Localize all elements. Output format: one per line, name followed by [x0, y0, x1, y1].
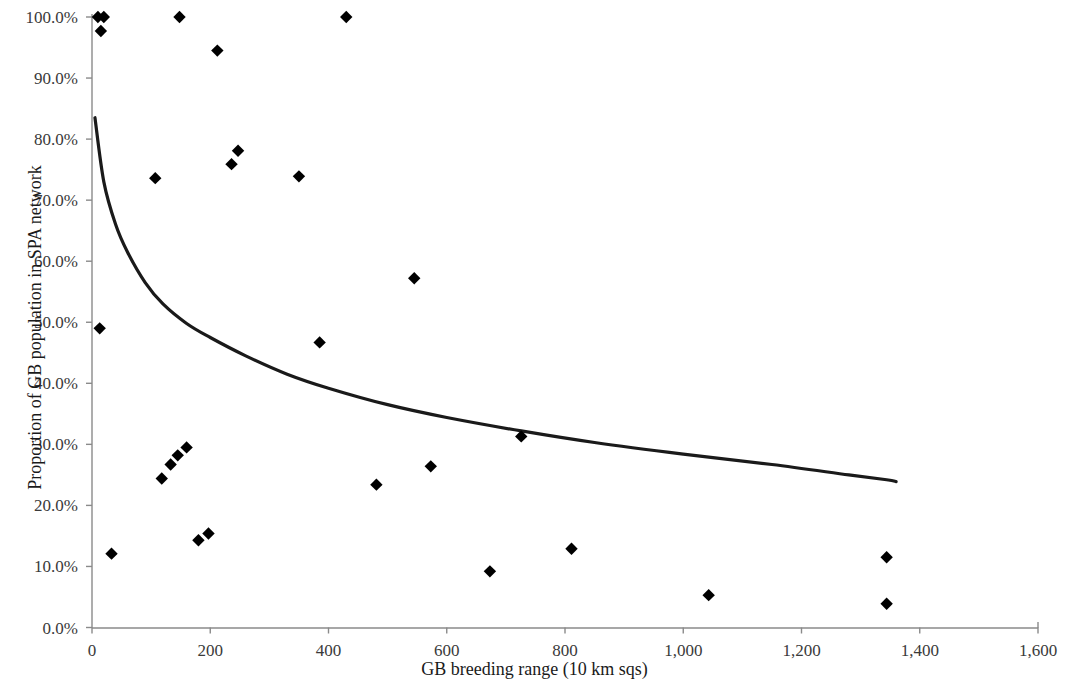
x-axis-tick-label: 1,200 [782, 642, 820, 659]
data-point-marker [156, 472, 168, 484]
data-point-marker [565, 543, 577, 555]
data-point-marker [149, 172, 161, 184]
data-point-marker [164, 458, 176, 470]
data-point-marker [232, 144, 244, 156]
y-axis-title: Proportion of GB population in SPA netwo… [25, 48, 46, 608]
y-axis-tick-label: 0.0% [0, 619, 78, 636]
data-point-marker [370, 478, 382, 490]
x-axis-tick-label: 400 [316, 642, 342, 659]
data-point-marker [173, 11, 185, 23]
x-axis-tick-label: 800 [552, 642, 578, 659]
data-point-marker [172, 449, 184, 461]
data-point-marker [340, 11, 352, 23]
axes [92, 14, 1038, 628]
trendline [95, 118, 896, 482]
data-point-marker [408, 272, 420, 284]
x-axis-tick-label: 1,600 [1019, 642, 1057, 659]
data-point-marker [225, 158, 237, 170]
y-axis-ticks [86, 17, 92, 628]
scatter-plot-canvas [0, 0, 1069, 688]
x-axis-tick-label: 200 [198, 642, 224, 659]
x-axis-tick-label: 1,400 [901, 642, 939, 659]
x-axis-tick-label: 1,000 [664, 642, 702, 659]
y-axis-tick-label: 100.0% [0, 9, 78, 26]
x-axis-tick-label: 600 [434, 642, 460, 659]
x-axis-tick-label: 0 [88, 642, 97, 659]
data-point-marker [313, 336, 325, 348]
data-point-marker [93, 322, 105, 334]
data-point-marker [192, 534, 204, 546]
data-point-marker [105, 547, 117, 559]
data-point-marker [702, 589, 714, 601]
data-point-marker [880, 597, 892, 609]
data-point-marker [880, 551, 892, 563]
data-points [92, 11, 893, 610]
chart-figure: 0.0%10.0%20.0%30.0%40.0%50.0%60.0%70.0%8… [0, 0, 1069, 688]
data-point-marker [293, 170, 305, 182]
data-point-marker [484, 565, 496, 577]
trendline-path [95, 118, 896, 482]
data-point-marker [202, 527, 214, 539]
data-point-marker [211, 44, 223, 56]
data-point-marker [425, 460, 437, 472]
x-axis-title: GB breeding range (10 km sqs) [0, 659, 1069, 680]
data-point-marker [180, 441, 192, 453]
data-point-marker [95, 25, 107, 37]
